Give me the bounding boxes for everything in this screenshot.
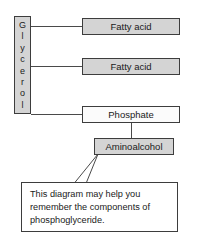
node-fatty-acid-1-label: Fatty acid xyxy=(110,21,151,32)
glycerol-letter-8: l xyxy=(15,100,30,111)
glycerol-letter-7: o xyxy=(15,88,30,99)
diagram-canvas: G l y c e r o l Fatty acid Fatty acid Ph… xyxy=(0,0,198,245)
node-fatty-acid-2: Fatty acid xyxy=(82,58,180,75)
node-phosphate-label: Phosphate xyxy=(108,109,153,120)
node-fatty-acid-2-label: Fatty acid xyxy=(110,61,151,72)
caption-callout: This diagram may help you remember the c… xyxy=(21,182,178,232)
node-aminoalcohol: Aminoalcohol xyxy=(94,138,174,155)
node-aminoalcohol-label: Aminoalcohol xyxy=(105,141,162,152)
glycerol-letter-2: l xyxy=(15,31,30,42)
node-fatty-acid-1: Fatty acid xyxy=(82,18,180,35)
glycerol-letter-5: e xyxy=(15,66,30,77)
glycerol-letter-1: G xyxy=(15,20,30,31)
connector-glycerol-phosphate xyxy=(31,114,82,115)
glycerol-letter-3: y xyxy=(15,43,30,54)
node-phosphate: Phosphate xyxy=(82,106,180,123)
caption-line-3: phosphoglyceride. xyxy=(30,214,170,227)
callout-tail xyxy=(60,152,120,186)
glycerol-letter-4: c xyxy=(15,54,30,65)
connector-glycerol-fatty-acid-2 xyxy=(31,66,82,67)
connector-phosphate-aminoalcohol xyxy=(131,123,132,138)
node-glycerol: G l y c e r o l xyxy=(14,16,31,114)
caption-line-2: remember the components of xyxy=(30,201,170,214)
connector-glycerol-fatty-acid-1 xyxy=(31,26,82,27)
glycerol-letter-6: r xyxy=(15,77,30,88)
caption-line-1: This diagram may help you xyxy=(30,188,170,201)
